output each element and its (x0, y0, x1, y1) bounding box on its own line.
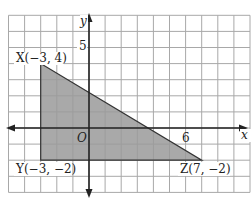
tick-label-y5: 5 (79, 39, 87, 53)
x-axis-label: x (241, 128, 248, 142)
vertex-x-label: X(−3, 4) (16, 51, 67, 65)
vertex-z-label: Z(7, −2) (180, 162, 231, 176)
y-axis-label: y (79, 14, 87, 28)
x-axis-arrow-left-icon (6, 125, 15, 132)
coordinate-plane: y x 5 6 O X(−3, 4) Y(−3, −2) Z(7, −2) (0, 0, 252, 202)
tick-label-x6: 6 (182, 131, 190, 145)
origin-label: O (77, 131, 87, 145)
vertex-y-label: Y(−3, −2) (15, 162, 76, 176)
y-axis-arrow-down-icon (86, 189, 93, 198)
